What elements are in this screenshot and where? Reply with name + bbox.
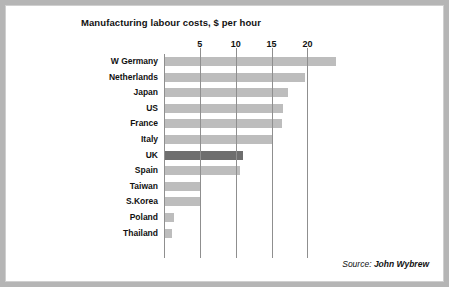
source-name: John Wybrew — [374, 259, 429, 269]
x-tick-mark-15 — [272, 48, 273, 54]
x-tick-mark-20 — [307, 48, 308, 54]
category-label-thailand: Thailand — [123, 228, 158, 239]
bar-row: UK — [164, 151, 354, 160]
bar-row: W Germany — [164, 57, 354, 66]
gridline-5 — [200, 54, 201, 258]
category-label-w-germany: W Germany — [111, 56, 158, 67]
bar-thailand — [164, 229, 172, 238]
chart-title: Manufacturing labour costs, $ per hour — [6, 17, 336, 28]
category-label-spain: Spain — [135, 165, 158, 176]
gridline-0 — [164, 54, 165, 258]
category-label-italy: Italy — [141, 134, 158, 145]
bar-row: Poland — [164, 213, 354, 222]
category-label-s-korea: S.Korea — [126, 196, 158, 207]
bar-taiwan — [164, 182, 201, 191]
bar-row: Spain — [164, 166, 354, 175]
gridline-15 — [272, 54, 273, 258]
bar-row: France — [164, 119, 354, 128]
category-label-netherlands: Netherlands — [109, 72, 158, 83]
bar-row: S.Korea — [164, 197, 354, 206]
bar-row: Thailand — [164, 229, 354, 238]
category-label-france: France — [130, 118, 158, 129]
bar-italy — [164, 135, 272, 144]
x-tick-mark-5 — [200, 48, 201, 54]
category-label-japan: Japan — [133, 87, 158, 98]
bar-s-korea — [164, 197, 200, 206]
category-label-us: US — [146, 103, 158, 114]
source-prefix: Source: — [342, 259, 371, 269]
bar-netherlands — [164, 73, 305, 82]
bar-row: Italy — [164, 135, 354, 144]
chart-screenshot: Manufacturing labour costs, $ per hour 5… — [0, 0, 449, 287]
bar-w-germany — [164, 57, 336, 66]
bar-france — [164, 119, 282, 128]
category-label-poland: Poland — [130, 212, 158, 223]
bar-japan — [164, 88, 288, 97]
gridline-10 — [236, 54, 237, 258]
bar-row: Netherlands — [164, 73, 354, 82]
bar-row: Taiwan — [164, 182, 354, 191]
bar-poland — [164, 213, 174, 222]
bar-row: Japan — [164, 88, 354, 97]
source-credit: Source: John Wybrew — [342, 259, 429, 269]
gridline-20 — [307, 54, 308, 258]
bar-us — [164, 104, 283, 113]
chart-area: Manufacturing labour costs, $ per hour 5… — [6, 6, 443, 281]
bar-spain — [164, 166, 240, 175]
bar-row: US — [164, 104, 354, 113]
x-tick-mark-10 — [236, 48, 237, 54]
x-axis-tick-labels: 5101520 — [164, 39, 354, 52]
category-label-uk: UK — [146, 150, 158, 161]
bar-uk — [164, 151, 243, 160]
category-label-taiwan: Taiwan — [130, 181, 158, 192]
plot-region: W GermanyNetherlandsJapanUSFranceItalyUK… — [164, 54, 354, 258]
